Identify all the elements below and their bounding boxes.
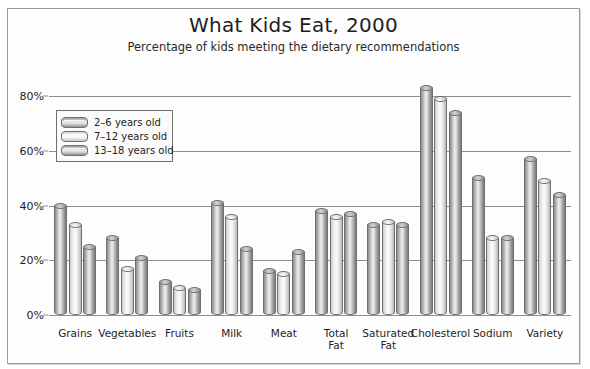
bar-cap	[367, 222, 380, 228]
x-axis-label: Meat	[271, 328, 297, 340]
bar	[367, 222, 380, 315]
bar	[344, 211, 357, 315]
chart-title: What Kids Eat, 2000	[8, 13, 579, 37]
bar-body	[240, 249, 253, 315]
bar-body	[315, 211, 328, 315]
bar-cap	[69, 222, 82, 228]
bar	[106, 235, 119, 315]
bar	[263, 268, 276, 315]
bar-body	[292, 252, 305, 315]
bar	[330, 214, 343, 315]
legend-item: 13–18 years old	[61, 143, 167, 157]
bar	[434, 96, 447, 315]
legend: 2–6 years old7–12 years old13–18 years o…	[56, 110, 173, 162]
bar-cap	[173, 285, 186, 291]
bar	[396, 222, 409, 315]
bar	[211, 200, 224, 315]
bar-body	[54, 206, 67, 315]
bar	[501, 235, 514, 315]
bar-body	[83, 247, 96, 315]
bar-group	[315, 69, 357, 315]
bar-body	[434, 99, 447, 315]
bar-body	[449, 113, 462, 315]
bar-body	[553, 195, 566, 315]
x-axis-label: Sodium	[473, 328, 513, 340]
x-axis-label: Fruits	[165, 328, 194, 340]
bar	[292, 249, 305, 315]
bar-group	[159, 69, 201, 315]
x-axis-label: Variety	[526, 328, 563, 340]
bar	[315, 208, 328, 315]
chart-subtitle: Percentage of kids meeting the dietary r…	[8, 40, 579, 54]
bar-body	[121, 269, 134, 315]
bar	[135, 255, 148, 315]
legend-item: 2–6 years old	[61, 115, 167, 129]
bar-cap	[159, 279, 172, 285]
y-tick-label: 60%	[20, 145, 44, 158]
gridline-0	[49, 315, 571, 316]
bar	[486, 235, 499, 315]
bar-group	[367, 69, 409, 315]
bar-group	[420, 69, 462, 315]
bar-cap	[382, 219, 395, 225]
bar-body	[382, 222, 395, 315]
x-axis-label: Grains	[58, 328, 92, 340]
bar-cap	[121, 266, 134, 272]
title-block: What Kids Eat, 2000 Percentage of kids m…	[8, 13, 579, 54]
x-axis-label: Cholesterol	[411, 328, 470, 340]
bar	[524, 156, 537, 315]
bar	[553, 192, 566, 315]
y-tick-label: 40%	[20, 199, 44, 212]
bar-group	[263, 69, 305, 315]
y-tick-label: 0%	[27, 309, 44, 322]
bar-cap	[396, 222, 409, 228]
legend-label: 13–18 years old	[94, 145, 174, 156]
bar-cap	[344, 211, 357, 217]
bar-body	[173, 288, 186, 315]
bar	[382, 219, 395, 315]
bar-body	[486, 238, 499, 315]
bar-body	[501, 238, 514, 315]
y-tick-label: 20%	[20, 254, 44, 267]
bar-series-container	[49, 69, 571, 315]
bar-cap	[135, 255, 148, 261]
bar-body	[225, 217, 238, 315]
bar-group	[106, 69, 148, 315]
bar-body	[69, 225, 82, 315]
bar-cap	[330, 214, 343, 220]
bar-body	[106, 238, 119, 315]
legend-swatch-icon	[61, 145, 88, 156]
bar-body	[188, 290, 201, 315]
legend-item: 7–12 years old	[61, 129, 167, 143]
bar-body	[277, 274, 290, 315]
bar-body	[344, 214, 357, 315]
bar-group	[54, 69, 96, 315]
bar-cap	[225, 214, 238, 220]
legend-swatch-icon	[61, 131, 88, 142]
bar-body	[524, 159, 537, 315]
bar	[54, 203, 67, 315]
bar	[538, 178, 551, 315]
legend-swatch-icon	[61, 117, 88, 128]
bar	[225, 214, 238, 315]
bar	[277, 271, 290, 315]
bar	[472, 175, 485, 315]
bar-body	[472, 178, 485, 315]
bar-cap	[83, 244, 96, 250]
bar	[83, 244, 96, 315]
x-axis-labels: GrainsVegetablesFruitsMilkMeatTotal FatS…	[49, 320, 571, 360]
bar-body	[396, 225, 409, 315]
legend-label: 7–12 years old	[94, 131, 167, 142]
bar-body	[211, 203, 224, 315]
bar	[69, 222, 82, 315]
x-axis-label: Milk	[221, 328, 242, 340]
y-tick-label: 80%	[20, 90, 44, 103]
x-axis-label: Vegetables	[98, 328, 156, 340]
legend-label: 2–6 years old	[94, 117, 161, 128]
bar	[173, 285, 186, 315]
x-axis-label: Saturated Fat	[362, 328, 414, 351]
bar	[420, 85, 433, 315]
bar-cap	[553, 192, 566, 198]
bar-group	[472, 69, 514, 315]
bar	[449, 110, 462, 315]
